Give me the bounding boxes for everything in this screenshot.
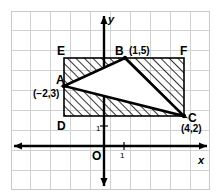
label-y-axis: y <box>108 14 114 25</box>
x-axis-arrow-right <box>199 142 207 149</box>
label-point-c-coords: (4,2) <box>181 124 202 134</box>
label-x-axis: x <box>198 155 204 166</box>
label-x-unit-tick: 1 <box>120 152 124 160</box>
label-point-e: E <box>57 45 65 57</box>
y-axis-arrow-up <box>100 16 107 24</box>
y-axis-arrow-down <box>100 178 107 186</box>
label-point-a: A <box>56 74 65 86</box>
vertex-c-dot <box>182 114 186 118</box>
x-axis-arrow-left <box>14 142 22 149</box>
label-point-a-coords: (−2,3) <box>33 89 59 99</box>
label-point-b: B <box>115 45 124 57</box>
label-point-d: D <box>57 120 66 132</box>
coordinate-figure: E F D A (−2,3) B (1,5) C (4,2) O x y 1 1 <box>0 0 221 196</box>
label-origin: O <box>92 150 101 162</box>
label-point-f: F <box>180 45 187 57</box>
label-y-unit-tick: 1 <box>96 125 100 133</box>
label-point-b-coords: (1,5) <box>129 46 150 56</box>
